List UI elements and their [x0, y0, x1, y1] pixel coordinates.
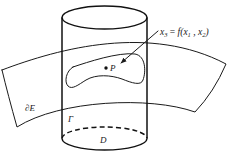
curve-gamma-label: Γ	[67, 114, 74, 124]
eq-equals: =	[167, 27, 177, 37]
domain-label: D	[99, 135, 107, 145]
eq-close: )	[204, 27, 208, 38]
boundary-label: ∂E	[25, 103, 35, 113]
pointer-arrow	[121, 31, 158, 63]
point-p-dot	[104, 66, 107, 69]
eq-separator: ,	[191, 27, 198, 37]
cylinder	[62, 6, 147, 150]
surface-equation-label: x3 = f(x1 , x2)	[159, 27, 209, 38]
cylinder-top-ellipse	[62, 6, 147, 29]
cylinder-surface-diagram: P x3 = f(x1 , x2) ∂E Γ D	[0, 0, 227, 155]
point-p-label: P	[109, 63, 116, 73]
surface-region	[66, 54, 145, 88]
